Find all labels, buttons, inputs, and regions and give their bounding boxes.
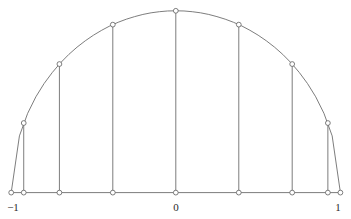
curve-node-marker (110, 22, 115, 27)
x-tick-label-left: −1 (7, 201, 19, 213)
axis-node-marker (173, 190, 178, 195)
curve-node-marker (236, 22, 241, 27)
axis-node-marker (236, 190, 241, 195)
curve-node-marker (325, 121, 330, 126)
figure-root: −1 0 1 (0, 0, 351, 219)
axis-node-marker (57, 190, 62, 195)
axis-node-marker (21, 190, 26, 195)
axis-node-marker (338, 190, 343, 195)
ordinate-lines-group (24, 11, 328, 193)
x-tick-label-center: 0 (173, 201, 179, 213)
axis-node-markers-group (9, 190, 343, 195)
semicircle-ordinates-chart: −1 0 1 (0, 0, 351, 219)
curve-node-marker (57, 62, 62, 67)
x-tick-label-right: 1 (335, 201, 341, 213)
axis-node-marker (325, 190, 330, 195)
curve-node-marker (173, 8, 178, 13)
curve-node-marker (290, 62, 295, 67)
curve-node-marker (21, 121, 26, 126)
axis-node-marker (290, 190, 295, 195)
axis-node-marker (9, 190, 14, 195)
axis-node-marker (110, 190, 115, 195)
